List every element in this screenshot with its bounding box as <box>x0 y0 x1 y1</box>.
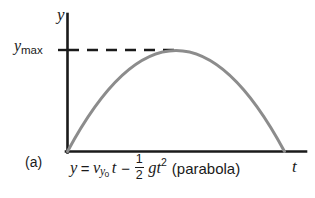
y-axis-label: y <box>57 6 65 23</box>
projectile-motion-figure: y t ymax (a) y = vyot − 1 2 gt2 (parabol… <box>0 0 315 198</box>
one-half-fraction: 1 2 <box>135 153 144 182</box>
time-factor-symbol: t <box>112 160 117 177</box>
velocity-subscript-o: o <box>105 170 110 179</box>
panel-label: (a) <box>25 155 42 169</box>
gravity-symbol: g <box>148 160 156 177</box>
equals-sign: = <box>81 161 90 176</box>
parabola-curve <box>68 51 285 152</box>
time-exponent: 2 <box>161 157 167 168</box>
parabola-note: (parabola) <box>172 161 240 176</box>
equation-caption: y = vyot − 1 2 gt2 (parabola) <box>70 158 240 178</box>
fraction-numerator: 1 <box>135 153 144 166</box>
t-axis-label: t <box>292 158 297 175</box>
fraction-denominator: 2 <box>135 169 144 182</box>
ymax-tick-label: ymax <box>14 38 43 54</box>
equation-lhs: y <box>70 160 77 177</box>
minus-sign: − <box>121 161 130 176</box>
ymax-subscript: max <box>21 44 42 56</box>
